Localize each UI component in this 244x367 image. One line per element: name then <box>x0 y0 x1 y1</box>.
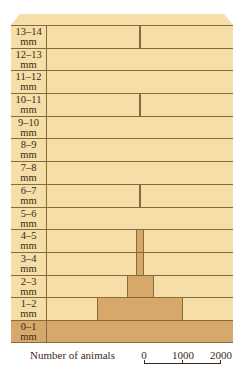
size-unit: mm <box>11 128 46 138</box>
histogram-row: 6–7mm <box>11 184 233 207</box>
size-unit: mm <box>11 37 46 47</box>
histogram-row: 13–14mm <box>11 25 233 48</box>
chart-panel: 13–14mm12–13mm11–12mm10–11mm9–10mm8–9mm7… <box>11 25 233 343</box>
row-label: 6–7mm <box>11 185 47 207</box>
histogram-row: 9–10mm <box>11 116 233 139</box>
histogram-row: 8–9mm <box>11 138 233 161</box>
row-label: 7–8mm <box>11 162 47 184</box>
size-unit: mm <box>11 309 46 319</box>
row-label: 2–3mm <box>11 276 47 298</box>
histogram-row: 10–11mm <box>11 93 233 116</box>
row-label: 3–4mm <box>11 253 47 275</box>
size-unit: mm <box>11 219 46 229</box>
size-unit: mm <box>11 150 46 160</box>
row-label: 4–5mm <box>11 230 47 252</box>
histogram-row: 2–3mm <box>11 275 233 298</box>
histogram-bar <box>136 230 144 252</box>
histogram-bar <box>139 94 141 116</box>
histogram-row: 7–8mm <box>11 161 233 184</box>
size-unit: mm <box>11 264 46 274</box>
row-label: 1–2mm <box>11 298 47 320</box>
histogram-row: 5–6mm <box>11 207 233 230</box>
row-label: 12–13mm <box>11 49 47 71</box>
size-unit: mm <box>11 173 46 183</box>
size-unit: mm <box>11 196 46 206</box>
scale-tick <box>144 360 145 364</box>
size-unit: mm <box>11 105 46 115</box>
row-label: 5–6mm <box>11 208 47 230</box>
size-unit: mm <box>11 241 46 251</box>
row-label: 13–14mm <box>11 26 47 48</box>
histogram-bar <box>127 276 154 298</box>
scale-tick-label-2000: 2000 <box>210 349 232 361</box>
histogram-row: 0–1mm <box>11 320 233 343</box>
histogram-bar <box>139 26 141 48</box>
size-unit: mm <box>11 287 46 297</box>
scale-tick <box>220 360 221 364</box>
row-label: 11–12mm <box>11 71 47 93</box>
histogram-row: 4–5mm <box>11 229 233 252</box>
panel-top-bevel <box>11 14 233 25</box>
histogram-row: 3–4mm <box>11 252 233 275</box>
x-axis-label: Number of animals <box>30 349 115 361</box>
size-unit: mm <box>11 332 46 342</box>
scale-tick-label-1000: 1000 <box>172 349 194 361</box>
size-range: 5–6 <box>11 209 46 219</box>
histogram-bar <box>139 185 141 207</box>
row-label: 0–1mm <box>11 321 47 342</box>
row-label: 9–10mm <box>11 117 47 139</box>
histogram-bar <box>97 298 183 320</box>
histogram-bar <box>136 253 144 275</box>
size-unit: mm <box>11 82 46 92</box>
histogram-row: 11–12mm <box>11 70 233 93</box>
histogram-row: 1–2mm <box>11 297 233 320</box>
size-unit: mm <box>11 60 46 70</box>
scale-tick <box>182 360 183 364</box>
row-label: 10–11mm <box>11 94 47 116</box>
row-label: 8–9mm <box>11 139 47 161</box>
histogram-row: 12–13mm <box>11 48 233 71</box>
